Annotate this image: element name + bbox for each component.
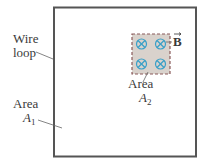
area2-subscript: 2: [147, 97, 152, 107]
wire-loop-label-line1: Wire: [13, 32, 38, 46]
wire-loop: [54, 8, 196, 157]
area2-word: Area: [128, 77, 153, 91]
wire-loop-label-line2: loop: [13, 46, 38, 60]
area2-label: Area A2: [128, 77, 153, 109]
wire-loop-label: Wire loop: [13, 32, 38, 60]
wire-loop-leader: [36, 52, 53, 59]
area2-symbol: A2: [128, 91, 153, 109]
diagram-graphics: [0, 0, 206, 165]
area1-leader: [38, 120, 62, 128]
area1-subscript: 1: [31, 117, 36, 127]
area2-letter: A: [139, 90, 147, 105]
field-label: B: [173, 35, 182, 49]
area1-symbol: A1: [13, 111, 38, 129]
area1-word: Area: [13, 97, 38, 111]
diagram: Wire loop Area A1 Area A2 B: [0, 0, 206, 165]
area1-label: Area A1: [13, 97, 38, 129]
area1-letter: A: [23, 110, 31, 125]
